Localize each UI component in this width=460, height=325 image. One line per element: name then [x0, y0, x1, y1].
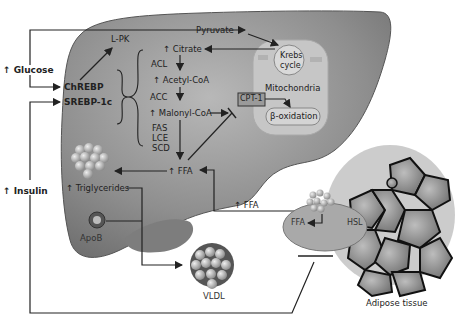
beta-oxidation-label: β-oxidation: [270, 112, 318, 121]
citrate-label: ↑ Citrate: [163, 45, 202, 54]
vldl-particle: [190, 243, 234, 289]
srebp1c-label: SREBP-1c: [64, 98, 112, 107]
adipose-tissue-label: Adipose tissue: [366, 299, 428, 308]
insulin-label: ↑ Insulin: [3, 187, 48, 196]
pyruvate-label: Pyruvate: [196, 26, 234, 35]
triglycerides-label: ↑ Triglycerides: [66, 184, 129, 193]
adipocyte-disk: [283, 203, 367, 251]
apob-label: ApoB: [80, 234, 102, 243]
lce-label: LCE: [152, 134, 168, 143]
lpk-label: L-PK: [111, 35, 129, 44]
malonyl-coa-label: ↑ Malonyl-CoA: [149, 109, 212, 118]
ffa-label: ↑ FFA: [168, 167, 193, 176]
krebs-cycle: [274, 45, 304, 75]
adipose-ffa-out-label: ↑ FFA: [234, 201, 259, 210]
krebs-label: Krebs: [280, 52, 303, 60]
mitochondria-label: Mitochondria: [265, 84, 320, 93]
acetyl-coa-label: ↑ Acetyl-CoA: [153, 76, 209, 85]
cycle-label: cycle: [280, 62, 301, 70]
vldl-label: VLDL: [203, 292, 225, 301]
chrebp-label: ChREBP: [64, 83, 104, 92]
fas-label: FAS: [152, 124, 167, 133]
scd-label: SCD: [152, 144, 170, 153]
acc-label: ACC: [150, 93, 168, 102]
hsl-label: HSL: [347, 219, 363, 227]
glucose-label: ↑ Glucose: [3, 66, 54, 75]
cpt1-label: CPT-1: [240, 95, 263, 103]
adipose-ffa-label: FFA: [291, 219, 305, 227]
diagram-canvas: [0, 0, 460, 325]
acl-label: ACL: [151, 60, 167, 69]
